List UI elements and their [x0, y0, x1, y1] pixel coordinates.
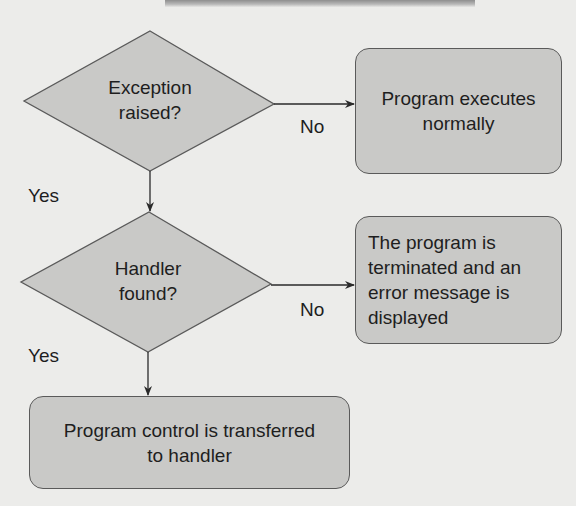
edge-label-yes-1: Yes — [28, 185, 59, 207]
edge-label-no-2: No — [300, 299, 324, 321]
decision-handler-text: Handler found? — [58, 256, 238, 306]
process-normal-label: Program executes normally — [381, 86, 535, 136]
edge-label-yes-2: Yes — [28, 345, 59, 367]
process-box-normal: Program executes normally — [355, 48, 562, 174]
decision-exception-label: Exception raised? — [60, 75, 240, 125]
process-box-transfer: Program control is transferred to handle… — [29, 396, 350, 489]
decision-handler-label: Handler found? — [58, 256, 238, 306]
edge-label-no-1: No — [300, 116, 324, 138]
decision-exception-text: Exception raised? — [60, 75, 240, 125]
process-transfer-label: Program control is transferred to handle… — [64, 418, 315, 468]
process-box-terminated: The program is terminated and an error m… — [355, 216, 562, 344]
process-terminated-label: The program is terminated and an error m… — [368, 230, 521, 330]
